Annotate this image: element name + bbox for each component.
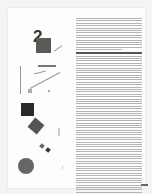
square-top — [36, 38, 51, 53]
section-rule — [76, 52, 142, 54]
diagram-dot — [48, 90, 50, 92]
diagram-line-upper — [34, 70, 46, 74]
text-paragraph-top — [76, 18, 142, 50]
diagram-mark — [28, 89, 32, 93]
diagram-line-long — [30, 72, 60, 89]
vertical-line — [20, 66, 21, 94]
page-number — [141, 184, 148, 186]
diagonal-stroke — [54, 45, 63, 52]
small-dot — [62, 166, 63, 169]
text-column — [76, 18, 142, 194]
square-black — [21, 103, 34, 116]
text-paragraph-body — [76, 56, 142, 194]
square-rotated — [28, 118, 45, 135]
circle — [18, 158, 34, 174]
small-square-2 — [45, 147, 51, 153]
book-page: 2 — [8, 8, 145, 188]
faint-arc — [58, 128, 60, 136]
diagram-label — [38, 65, 56, 67]
small-square-1 — [39, 143, 45, 149]
